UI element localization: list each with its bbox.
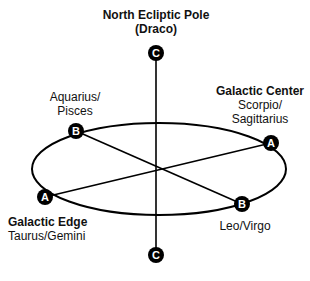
- leo-virgo-text: Leo/Virgo: [210, 219, 280, 233]
- node-a-right-label: A: [267, 137, 275, 149]
- galactic-edge-label: Galactic Edge Taurus/Gemini: [8, 215, 108, 243]
- node-b-lower-right: B: [234, 196, 250, 212]
- galactic-axis-a: [45, 143, 271, 197]
- galactic-center-line1: Scorpio/: [212, 98, 308, 112]
- galactic-center-title: Galactic Center: [212, 84, 308, 98]
- aquarius-pisces-label: Aquarius/ Pisces: [40, 90, 110, 118]
- north-pole-subtitle: (Draco): [86, 22, 226, 36]
- node-c-bottom-label: C: [152, 249, 160, 261]
- north-pole-title: North Ecliptic Pole: [86, 8, 226, 22]
- north-pole-label: North Ecliptic Pole (Draco): [86, 8, 226, 36]
- galactic-center-label: Galactic Center Scorpio/ Sagittarius: [212, 84, 308, 126]
- galactic-edge-title: Galactic Edge: [8, 215, 108, 229]
- aquarius-line1: Aquarius/: [40, 90, 110, 104]
- node-a-right: A: [263, 135, 279, 151]
- axis-b: [76, 131, 242, 204]
- node-a-left-label: A: [41, 191, 49, 203]
- node-c-top: C: [148, 45, 164, 61]
- node-c-bottom: C: [148, 247, 164, 263]
- node-c-top-label: C: [152, 47, 160, 59]
- node-b-lower-right-label: B: [238, 198, 246, 210]
- galactic-center-line2: Sagittarius: [212, 112, 308, 126]
- node-b-upper-left-label: B: [72, 125, 80, 137]
- leo-virgo-label: Leo/Virgo: [210, 219, 280, 233]
- node-a-left: A: [37, 189, 53, 205]
- node-b-upper-left: B: [68, 123, 84, 139]
- aquarius-line2: Pisces: [40, 104, 110, 118]
- galactic-edge-subtitle: Taurus/Gemini: [8, 229, 108, 243]
